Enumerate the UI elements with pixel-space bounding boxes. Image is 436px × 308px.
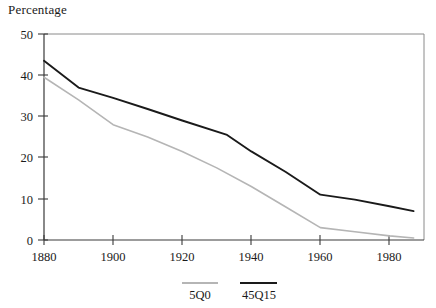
y-tick-label: 50 (21, 28, 34, 42)
legend-label-5q0: 5Q0 (189, 288, 211, 302)
x-tick-label: 1880 (32, 250, 57, 264)
chart-plot-area: 50 40 30 20 10 0 1880 1900 1920 1940 196… (0, 0, 436, 308)
x-axis-tick-labels: 1880 1900 1920 1940 1960 1980 (32, 250, 402, 264)
axis-frame (44, 34, 424, 240)
chart-figure: Percentage 50 (0, 0, 436, 308)
x-tick-label: 1980 (377, 250, 402, 264)
chart-legend: 5Q0 45Q15 (182, 283, 277, 302)
x-tick-label: 1920 (170, 250, 195, 264)
series-line-5q0 (44, 77, 414, 238)
data-series-group (44, 61, 414, 238)
y-axis-tick-labels: 50 40 30 20 10 0 (21, 28, 34, 248)
x-tick-label: 1940 (239, 250, 264, 264)
y-tick-label: 0 (27, 234, 33, 248)
y-tick-label: 30 (21, 110, 34, 124)
y-tick-label: 20 (21, 151, 34, 165)
y-tick-label: 40 (21, 69, 34, 83)
x-tick-label: 1900 (101, 250, 126, 264)
series-line-45q15 (44, 61, 414, 211)
y-tick-label: 10 (21, 193, 34, 207)
legend-label-45q15: 45Q15 (242, 288, 276, 302)
x-tick-label: 1960 (308, 250, 333, 264)
y-axis-ticks (38, 34, 48, 240)
